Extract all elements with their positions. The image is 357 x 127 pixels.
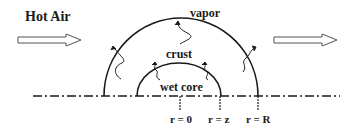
vapor-label: vapor bbox=[190, 6, 221, 20]
r-R-label: r = R bbox=[246, 113, 271, 125]
vapor-arrow-icon bbox=[114, 47, 124, 79]
drying-particle-diagram: Hot Air vapor crust wet core r = 0 bbox=[0, 0, 357, 127]
hot-air-label: Hot Air bbox=[25, 9, 71, 24]
crust-label: crust bbox=[166, 47, 192, 61]
r-zero-label: r = 0 bbox=[170, 113, 192, 125]
core-evaporation-arrows bbox=[152, 62, 208, 80]
evaporation-arrow-icon bbox=[155, 63, 160, 80]
r-z-label: r = z bbox=[208, 113, 229, 125]
wet-core-label: wet core bbox=[160, 80, 203, 94]
vapor-arrow-icon bbox=[178, 22, 191, 44]
air-outflow-arrow-icon bbox=[274, 34, 337, 46]
hot-air-inflow-arrow-icon bbox=[18, 34, 81, 46]
